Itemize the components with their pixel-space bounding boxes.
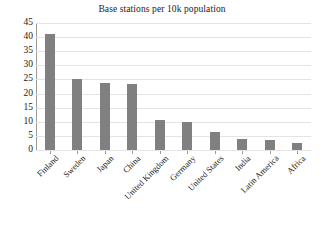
x-axis-tick-label: India	[234, 154, 253, 173]
bar-chart: Base stations per 10k population 0510152…	[0, 0, 324, 232]
x-axis-tick-label: Sweden	[62, 154, 88, 180]
y-axis-tick-label: 30	[3, 60, 33, 70]
gridline	[36, 37, 311, 38]
x-axis-tick-label: China	[122, 154, 143, 175]
x-axis-tick	[187, 151, 188, 154]
bar	[292, 143, 302, 150]
bar	[127, 84, 137, 150]
x-axis-tick-label-wrap: India	[246, 154, 252, 160]
y-axis-tick-label: 5	[3, 131, 33, 141]
x-axis-tick-label-wrap: United States	[219, 154, 225, 160]
y-axis-tick-label: 0	[3, 145, 33, 155]
y-axis-tick-label: 40	[3, 32, 33, 42]
x-axis-tick	[215, 151, 216, 154]
y-axis-tick-label: 45	[3, 18, 33, 28]
y-axis-tick-label: 20	[3, 89, 33, 99]
bar	[237, 139, 247, 150]
bar	[100, 83, 110, 150]
bar	[45, 34, 55, 150]
bar	[210, 132, 220, 150]
x-axis-tick	[105, 151, 106, 154]
x-axis-tick	[242, 151, 243, 154]
y-axis-tick-label: 25	[3, 74, 33, 84]
gridline	[36, 23, 311, 24]
gridline	[36, 65, 311, 66]
x-axis-tick	[297, 151, 298, 154]
x-axis-tick	[77, 151, 78, 154]
y-axis-tick-label: 10	[3, 117, 33, 127]
chart-title: Base stations per 10k population	[0, 3, 324, 15]
bar	[182, 122, 192, 150]
x-axis-tick	[270, 151, 271, 154]
x-axis-tick-label-wrap: Africa	[301, 154, 307, 160]
x-axis-tick	[132, 151, 133, 154]
x-axis-tick-label-wrap: China	[136, 154, 142, 160]
x-axis-tick-label: Japan	[95, 154, 115, 174]
x-axis-tick	[50, 151, 51, 154]
bar	[72, 79, 82, 150]
x-axis-tick-label-wrap: Sweden	[81, 154, 87, 160]
y-axis-tick-labels: 051015202530354045	[0, 0, 33, 232]
plot-area	[36, 23, 311, 150]
x-axis-tick-label-wrap: Japan	[109, 154, 115, 160]
x-axis-tick-label: Finland	[35, 154, 60, 179]
x-axis-tick-label-wrap: United Kingdom	[164, 154, 170, 160]
y-axis-tick-label: 35	[3, 46, 33, 56]
x-axis-tick-label-wrap: Latin America	[274, 154, 280, 160]
bar	[265, 140, 275, 150]
x-axis-tick-label-wrap: Finland	[54, 154, 60, 160]
x-axis-tick-label-wrap: Germany	[191, 154, 197, 160]
bar	[155, 120, 165, 150]
gridline	[36, 51, 311, 52]
x-axis-tick-label: Africa	[286, 154, 308, 176]
x-axis-tick	[160, 151, 161, 154]
y-axis-tick-label: 15	[3, 103, 33, 113]
